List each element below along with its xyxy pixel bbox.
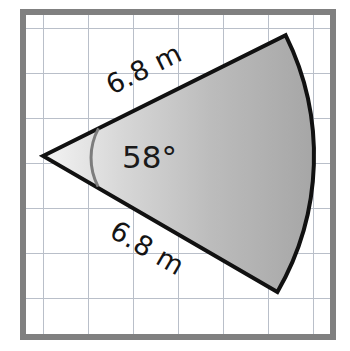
central-angle-label: 58° xyxy=(122,139,177,175)
sector-figure-svg: 58° 6.8 m 6.8 m xyxy=(0,0,350,351)
figure-container: 58° 6.8 m 6.8 m xyxy=(0,0,350,351)
